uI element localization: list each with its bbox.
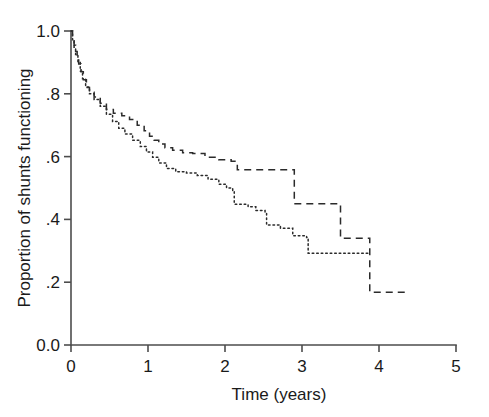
y-tick-label: .8 bbox=[46, 85, 60, 104]
x-axis-title: Time (years) bbox=[232, 385, 327, 404]
x-tick-label: 2 bbox=[220, 357, 229, 376]
axis-labels: Time (years) Proportion of shunts functi… bbox=[15, 68, 326, 404]
x-tick-label: 4 bbox=[374, 357, 383, 376]
y-tick-label: .4 bbox=[46, 210, 60, 229]
x-tick-label: 1 bbox=[143, 357, 152, 376]
y-tick-label: .6 bbox=[46, 148, 60, 167]
y-axis-title: Proportion of shunts functioning bbox=[15, 68, 34, 307]
y-tick-label: 1.0 bbox=[36, 22, 60, 41]
survival-curve-figure: 012345 0.0.2.4.6.81.0 Time (years) Propo… bbox=[0, 0, 489, 417]
data-series-group bbox=[71, 31, 406, 292]
y-tick-label: .2 bbox=[46, 273, 60, 292]
axes: 012345 0.0.2.4.6.81.0 bbox=[36, 22, 460, 376]
series-dashed-curve bbox=[71, 31, 406, 292]
kaplan-meier-plot: 012345 0.0.2.4.6.81.0 Time (years) Propo… bbox=[0, 0, 489, 417]
x-tick-label: 3 bbox=[297, 357, 306, 376]
y-axis-ticks: 0.0.2.4.6.81.0 bbox=[36, 22, 71, 355]
y-tick-label: 0.0 bbox=[36, 336, 60, 355]
series-dotted-curve bbox=[71, 31, 370, 253]
x-tick-label: 0 bbox=[66, 357, 75, 376]
x-axis-ticks: 012345 bbox=[66, 345, 460, 376]
x-tick-label: 5 bbox=[451, 357, 460, 376]
